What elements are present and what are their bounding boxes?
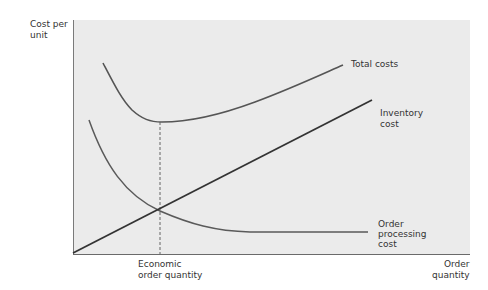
order-processing-label-line: processing	[378, 229, 427, 239]
y-axis-label-line: Cost per	[30, 19, 68, 30]
eoq-label-line: order quantity	[138, 270, 202, 281]
x-axis-label: Order quantity	[432, 259, 470, 281]
total-costs-curve	[103, 63, 343, 122]
y-axis-label: Cost per unit	[30, 19, 68, 41]
order-processing-label-line: cost	[378, 239, 427, 249]
x-axis-label-line: quantity	[432, 270, 470, 281]
total-costs-label: Total costs	[351, 59, 398, 70]
eoq-label-line: Economic	[138, 259, 202, 270]
x-axis-label-line: Order	[432, 259, 470, 270]
inventory-cost-label-line: cost	[380, 119, 423, 130]
order-processing-label-line: Order	[378, 219, 427, 229]
order-processing-curve	[89, 120, 368, 232]
inventory-cost-label-line: Inventory	[380, 108, 423, 119]
eoq-label: Economic order quantity	[138, 259, 202, 281]
order-processing-label: Order processing cost	[378, 219, 427, 249]
inventory-cost-label: Inventory cost	[380, 108, 423, 130]
y-axis-label-line: unit	[30, 30, 68, 41]
total-costs-label-text: Total costs	[351, 59, 398, 70]
